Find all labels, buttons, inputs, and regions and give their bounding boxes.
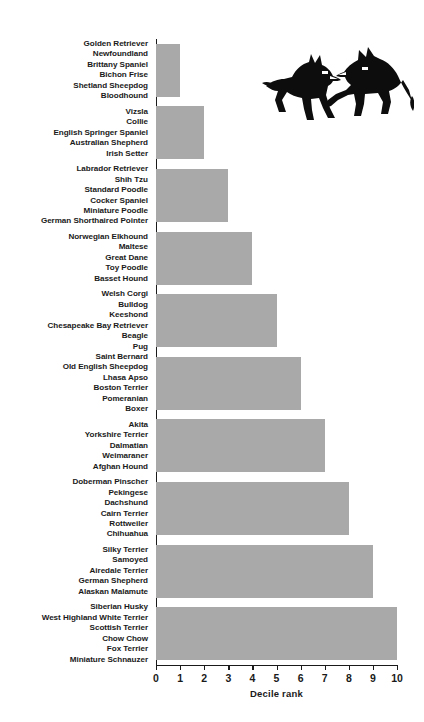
x-tick-9 — [373, 665, 374, 670]
bar-fill — [156, 106, 204, 159]
breed-label: Pug — [0, 342, 148, 352]
breed-label: Norwegian Elkhound — [0, 232, 148, 242]
breed-label: Basset Hound — [0, 274, 148, 284]
breed-group-decile-1: Golden RetrieverNewfoundlandBrittany Spa… — [0, 44, 148, 97]
breed-label: Chihuahua — [0, 529, 148, 539]
breed-label: Vizsla — [0, 107, 148, 117]
bar-fill — [156, 294, 277, 347]
breed-label: German Shepherd — [0, 576, 148, 586]
breed-label: Chesapeake Bay Retriever — [0, 321, 148, 331]
plot-area: 012345678910 Decile rank — [156, 39, 397, 665]
x-tick-8 — [349, 665, 350, 670]
breed-group-decile-8: Doberman PinscherPekingeseDachshundCairn… — [0, 482, 148, 535]
bar-decile-10 — [156, 607, 397, 660]
breed-label: Australian Shepherd — [0, 138, 148, 148]
x-tick-6 — [301, 665, 302, 670]
bar-fill — [156, 419, 325, 472]
breed-label: Silky Terrier — [0, 545, 148, 555]
breed-label: Beagle — [0, 331, 148, 341]
bar-fill — [156, 169, 228, 222]
breed-label: German Shorthaired Pointer — [0, 216, 148, 226]
x-tick-0 — [156, 665, 157, 670]
bar-decile-7 — [156, 419, 397, 472]
breed-label: Yorkshire Terrier — [0, 430, 148, 440]
breed-label: Rottweiler — [0, 519, 148, 529]
breed-label: Welsh Corgi — [0, 289, 148, 299]
breed-label: Cairn Terrier — [0, 509, 148, 519]
breed-label: Miniature Poodle — [0, 206, 148, 216]
breed-group-decile-3: Labrador RetrieverShih TzuStandard Poodl… — [0, 169, 148, 222]
breed-group-decile-2: VizslaCollieEnglish Springer SpanielAust… — [0, 106, 148, 159]
bar-decile-1 — [156, 44, 397, 97]
breed-label: Fox Terrier — [0, 644, 148, 654]
breed-label: Lhasa Apso — [0, 373, 148, 383]
breed-label: Saint Bernard — [0, 352, 148, 362]
x-tick-3 — [228, 665, 229, 670]
breed-label: Samoyed — [0, 555, 148, 565]
bar-decile-3 — [156, 169, 397, 222]
breed-label: Shetland Sheepdog — [0, 81, 148, 91]
breed-label: Afghan Hound — [0, 462, 148, 472]
bar-fill — [156, 232, 252, 285]
x-tick-1 — [180, 665, 181, 670]
breed-label: Scottish Terrier — [0, 623, 148, 633]
breed-label: Dalmatian — [0, 441, 148, 451]
breed-group-decile-9: Silky TerrierSamoyedAiredale TerrierGerm… — [0, 545, 148, 598]
breed-label: Maltese — [0, 242, 148, 252]
breed-label: Brittany Spaniel — [0, 60, 148, 70]
breed-label: Weimaraner — [0, 451, 148, 461]
x-tick-10 — [397, 665, 398, 670]
breed-label: Cocker Spaniel — [0, 196, 148, 206]
breed-label: Bloodhound — [0, 91, 148, 101]
breed-label: Pekingese — [0, 488, 148, 498]
bar-fill — [156, 357, 301, 410]
breed-group-decile-5: Welsh CorgiBulldogKeeshondChesapeake Bay… — [0, 294, 148, 347]
bar-decile-9 — [156, 545, 397, 598]
bar-decile-5 — [156, 294, 397, 347]
breed-label: Collie — [0, 117, 148, 127]
bar-fill — [156, 607, 397, 660]
x-tick-5 — [277, 665, 278, 670]
breed-group-decile-4: Norwegian ElkhoundMalteseGreat DaneToy P… — [0, 232, 148, 285]
x-tick-label-10: 10 — [382, 672, 412, 684]
x-tick-4 — [252, 665, 253, 670]
x-tick-2 — [204, 665, 205, 670]
breed-label: Dachshund — [0, 498, 148, 508]
breed-label: Irish Setter — [0, 149, 148, 159]
breed-label: Miniature Schnauzer — [0, 655, 148, 665]
breed-label: Akita — [0, 420, 148, 430]
breed-label: Old English Sheepdog — [0, 362, 148, 372]
breed-label: Shih Tzu — [0, 175, 148, 185]
breed-label: Pomeranian — [0, 394, 148, 404]
breed-label: West Highland White Terrier — [0, 613, 148, 623]
breed-label: English Springer Spaniel — [0, 128, 148, 138]
bar-fill — [156, 44, 180, 97]
breed-label: Great Dane — [0, 253, 148, 263]
bar-decile-2 — [156, 106, 397, 159]
x-tick-7 — [325, 665, 326, 670]
breed-label: Bulldog — [0, 300, 148, 310]
breed-label: Boston Terrier — [0, 383, 148, 393]
breed-label: Boxer — [0, 404, 148, 414]
breed-group-decile-10: Siberian HuskyWest Highland White Terrie… — [0, 607, 148, 660]
bar-decile-6 — [156, 357, 397, 410]
bar-decile-4 — [156, 232, 397, 285]
breed-label: Golden Retriever — [0, 39, 148, 49]
breed-label: Airedale Terrier — [0, 566, 148, 576]
breed-label-column: Golden RetrieverNewfoundlandBrittany Spa… — [0, 39, 152, 665]
breed-group-decile-6: Saint BernardOld English SheepdogLhasa A… — [0, 357, 148, 410]
bar-decile-8 — [156, 482, 397, 535]
bar-fill — [156, 545, 373, 598]
bar-fill — [156, 482, 349, 535]
breed-label: Chow Chow — [0, 634, 148, 644]
breed-label: Doberman Pinscher — [0, 477, 148, 487]
breed-label: Labrador Retriever — [0, 164, 148, 174]
x-axis-label: Decile rank — [156, 688, 397, 699]
breed-label: Newfoundland — [0, 49, 148, 59]
breed-label: Siberian Husky — [0, 602, 148, 612]
breed-label: Alaskan Malamute — [0, 587, 148, 597]
breed-label: Keeshond — [0, 310, 148, 320]
breed-group-decile-7: AkitaYorkshire TerrierDalmatianWeimarane… — [0, 419, 148, 472]
decile-rank-bar-chart: Golden RetrieverNewfoundlandBrittany Spa… — [0, 0, 424, 722]
breed-label: Standard Poodle — [0, 185, 148, 195]
